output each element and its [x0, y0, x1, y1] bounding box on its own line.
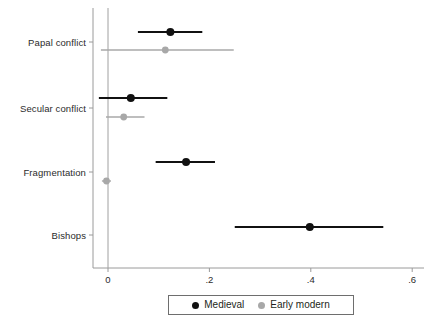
data-point-medieval-secular-conflict — [99, 94, 167, 102]
category-label-papal-conflict: Papal conflict — [28, 37, 86, 48]
estimate-marker — [162, 47, 169, 54]
legend-label: Early modern — [270, 300, 329, 310]
legend-label: Medieval — [204, 300, 244, 310]
category-label-secular-conflict: Secular conflict — [20, 103, 86, 114]
data-point-early-modern-papal-conflict — [101, 47, 234, 54]
estimate-marker — [182, 158, 190, 166]
estimate-marker — [120, 114, 127, 121]
data-point-medieval-bishops — [235, 223, 384, 231]
x-tick-label: .4 — [307, 274, 315, 285]
chart-legend: MedievalEarly modern — [168, 295, 354, 315]
data-point-early-modern-fragmentation — [102, 178, 111, 185]
category-label-fragmentation: Fragmentation — [23, 167, 86, 178]
data-point-early-modern-secular-conflict — [106, 114, 145, 121]
legend-dot-icon — [258, 302, 265, 309]
legend-entry-early-modern[interactable]: Early modern — [258, 300, 329, 310]
x-tick-label: .2 — [205, 274, 213, 285]
legend-entry-medieval[interactable]: Medieval — [192, 300, 244, 310]
legend-dot-icon — [192, 302, 199, 309]
data-point-medieval-papal-conflict — [138, 28, 202, 36]
coefficient-plot: 0.2.4.6Papal conflictSecular conflictFra… — [0, 0, 427, 330]
x-tick-label: 0 — [105, 274, 110, 285]
chart-canvas — [0, 0, 427, 330]
x-tick-label: .6 — [408, 274, 416, 285]
data-point-medieval-fragmentation — [156, 158, 215, 166]
estimate-marker — [306, 223, 314, 231]
estimate-marker — [166, 28, 174, 36]
estimate-marker — [127, 94, 135, 102]
category-label-bishops: Bishops — [52, 230, 87, 241]
estimate-marker — [103, 178, 110, 185]
